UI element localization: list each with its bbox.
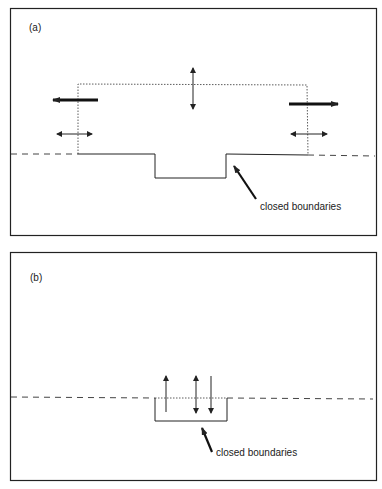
water-table-left bbox=[11, 397, 155, 398]
water-table-right bbox=[227, 398, 373, 399]
water-table-right bbox=[308, 155, 375, 156]
panel-a-label: (a) bbox=[29, 22, 41, 33]
panel-a-annotation: closed boundaries bbox=[260, 201, 341, 212]
panel-b-border bbox=[11, 253, 377, 481]
leader-arrow-b bbox=[202, 428, 212, 452]
panel-b-label: (b) bbox=[30, 272, 42, 283]
diagram-canvas bbox=[0, 0, 382, 489]
panel-b-annotation: closed boundaries bbox=[216, 447, 297, 458]
leader-arrow-a bbox=[234, 166, 256, 199]
panel-b bbox=[11, 253, 377, 481]
closed-boundary-outline bbox=[78, 154, 308, 178]
